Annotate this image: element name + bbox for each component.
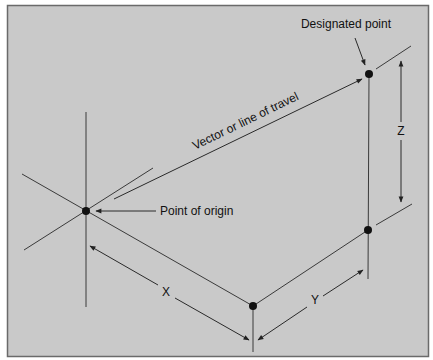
diagram-frame <box>8 6 429 357</box>
z-label: Z <box>397 124 404 138</box>
designated-point <box>365 70 373 78</box>
x-end-point <box>249 302 257 310</box>
point-of-origin-label: Point of origin <box>160 204 233 218</box>
diagram-canvas: Designated point Point of origin Vector … <box>0 0 433 360</box>
x-label: X <box>162 285 170 299</box>
origin-point <box>82 207 90 215</box>
coordinate-diagram: Designated point Point of origin Vector … <box>0 0 433 360</box>
designated-point-label: Designated point <box>301 17 392 31</box>
y-label: Y <box>311 293 319 307</box>
y-end-point <box>364 226 372 234</box>
